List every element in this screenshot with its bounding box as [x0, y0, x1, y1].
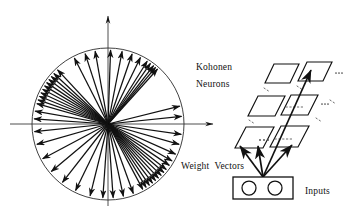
kohonen-som-figure: Kohonen Neurons Weight Vectors Inputs [0, 0, 348, 220]
depth-dash [330, 100, 336, 104]
neuron-cell[interactable] [235, 127, 274, 148]
weight-vector [108, 69, 158, 124]
weight-vector [51, 124, 108, 172]
neuron-cell[interactable] [265, 64, 299, 83]
weight-vector [108, 124, 169, 165]
inputs-box[interactable] [233, 177, 293, 199]
depth-dash [264, 88, 270, 92]
input-node[interactable] [242, 181, 256, 195]
label-weight-vectors: Weight Vectors [181, 160, 244, 172]
connection-arrow [263, 145, 292, 177]
label-inputs: Inputs [305, 185, 330, 197]
depth-dash [249, 120, 255, 124]
neuron-cell[interactable] [281, 95, 318, 115]
weight-vector [37, 124, 108, 144]
neuron-cell[interactable] [298, 62, 332, 81]
input-node[interactable] [268, 181, 282, 195]
input-connection-arrows [240, 70, 311, 177]
label-kohonen: Kohonen [196, 61, 232, 73]
weight-vector [43, 124, 108, 159]
weight-vector [108, 116, 182, 124]
neuron-lattice [235, 62, 332, 148]
neuron-cell[interactable] [270, 126, 309, 147]
neuron-cell[interactable] [248, 96, 285, 116]
figure-canvas [0, 0, 348, 220]
label-neurons: Neurons [196, 78, 230, 90]
weight-vector [34, 124, 108, 132]
depth-dash [316, 118, 322, 122]
weight-vector [76, 124, 108, 191]
connection-arrow [263, 70, 311, 177]
